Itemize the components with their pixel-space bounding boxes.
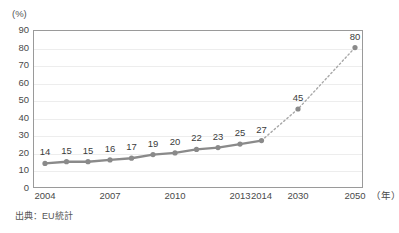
data-point-value-label: 80 [350, 32, 361, 42]
data-point-value-label: 15 [61, 146, 72, 156]
data-point-value-label: 25 [235, 128, 246, 138]
source-note: 出典：EU統計 [15, 209, 73, 222]
data-point-value-label: 45 [293, 93, 304, 103]
data-point-marker [237, 142, 242, 147]
data-point-value-label: 27 [256, 125, 267, 135]
data-point-marker [259, 138, 264, 143]
data-point-value-label: 17 [126, 142, 137, 152]
data-point-marker [42, 161, 47, 166]
data-point-value-label: 16 [105, 144, 116, 154]
line-series-projection [262, 48, 356, 141]
data-point-marker [129, 156, 134, 161]
data-point-value-label: 23 [213, 132, 224, 142]
data-point-marker [295, 106, 300, 111]
data-point-marker [215, 145, 220, 150]
data-point-value-label: 22 [191, 133, 202, 143]
data-point-marker [172, 150, 177, 155]
data-point-marker [85, 159, 90, 164]
data-point-value-label: 19 [148, 139, 159, 149]
data-point-value-label: 20 [170, 137, 181, 147]
data-point-marker [352, 45, 357, 50]
data-point-value-label: 14 [40, 147, 51, 157]
data-point-marker [150, 152, 155, 157]
data-point-marker [64, 159, 69, 164]
data-point-marker [107, 157, 112, 162]
data-point-marker [194, 147, 199, 152]
data-point-value-label: 15 [83, 146, 94, 156]
